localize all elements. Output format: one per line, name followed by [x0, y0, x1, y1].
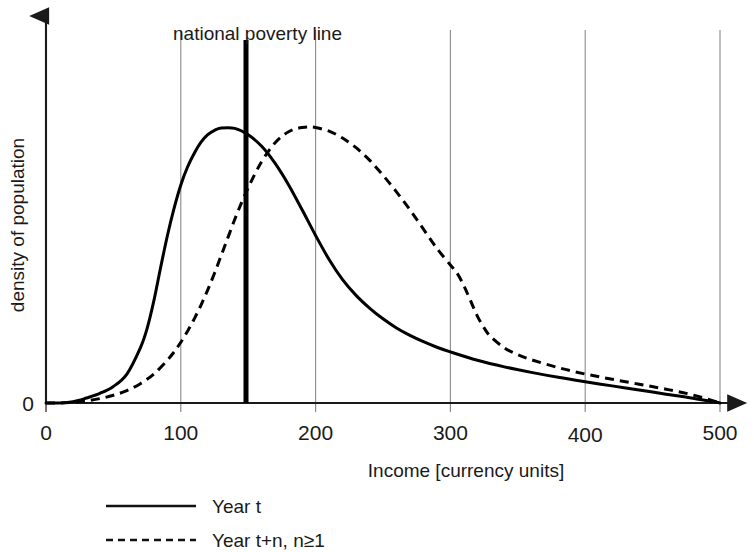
x-tick-label-300: 300 — [433, 421, 468, 444]
income-density-chart: national poverty line 0 density of popul… — [0, 0, 754, 552]
y-origin-label: 0 — [22, 392, 34, 415]
x-tick-label-100: 100 — [163, 421, 198, 444]
x-tick-label-200: 200 — [298, 421, 333, 444]
x-tick-label-400: 400 — [568, 423, 603, 446]
curve-year-t-plus-n — [46, 127, 720, 403]
x-tick-label-500: 500 — [702, 421, 737, 444]
legend-label-year-t: Year t — [212, 496, 262, 517]
legend-label-year-t-plus-n: Year t+n, n≥1 — [212, 530, 325, 551]
poverty-line-label: national poverty line — [173, 23, 342, 44]
chart-figure: national poverty line 0 density of popul… — [0, 0, 754, 552]
chart-legend: Year t Year t+n, n≥1 — [106, 496, 325, 551]
x-axis-ticks — [46, 403, 720, 412]
y-axis-title: density of population — [7, 138, 28, 312]
gridlines — [181, 30, 720, 403]
x-axis-title: Income [currency units] — [368, 460, 564, 481]
curve-year-t — [46, 128, 720, 403]
x-tick-label-0: 0 — [40, 421, 52, 444]
